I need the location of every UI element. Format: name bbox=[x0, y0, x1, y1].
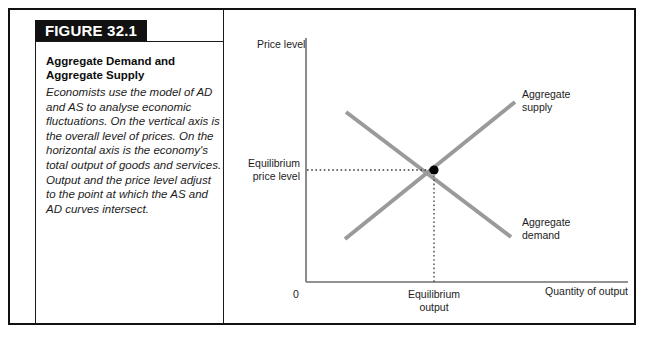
origin-label: 0 bbox=[293, 288, 299, 300]
y-axis-label: Price level bbox=[257, 38, 305, 50]
chart-panel: Price level Quantity of output 0 Equilib… bbox=[224, 10, 638, 323]
caption-panel: FIGURE 32.1 Aggregate Demand and Aggrega… bbox=[10, 10, 224, 323]
equilibrium-price-label-line2: price level bbox=[253, 170, 300, 182]
aggregate-demand-label-line1: Aggregate bbox=[522, 216, 571, 228]
x-axis-label: Quantity of output bbox=[545, 285, 628, 297]
ad-as-chart: Price level Quantity of output 0 Equilib… bbox=[224, 10, 638, 323]
aggregate-supply-label-line1: Aggregate bbox=[522, 88, 571, 100]
equilibrium-output-label-line2: output bbox=[419, 301, 448, 313]
aggregate-supply-label-line2: supply bbox=[522, 101, 553, 113]
figure-container: FIGURE 32.1 Aggregate Demand and Aggrega… bbox=[8, 8, 636, 325]
equilibrium-output-label-line1: Equilibrium bbox=[408, 288, 460, 300]
equilibrium-point-marker bbox=[429, 165, 438, 174]
figure-description: Economists use the model of AD and AS to… bbox=[46, 85, 222, 216]
figure-heading: Aggregate Demand and Aggregate Supply bbox=[46, 54, 218, 82]
figure-number-tag: FIGURE 32.1 bbox=[35, 20, 147, 41]
aggregate-demand-label-line2: demand bbox=[522, 229, 560, 241]
equilibrium-price-label-line1: Equilibrium bbox=[248, 157, 300, 169]
